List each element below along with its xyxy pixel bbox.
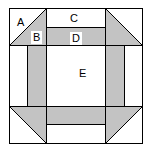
plain-band-right — [125, 46, 143, 107]
shaded-band-right — [106, 46, 125, 107]
region-label-d: D — [70, 32, 82, 45]
region-label-e: E — [79, 68, 86, 79]
plain-center-square — [47, 46, 106, 107]
region-label-b: B — [31, 31, 42, 44]
geometric-figure: A B C D E — [0, 0, 151, 154]
shaded-band-bottom — [47, 107, 106, 125]
region-label-c: C — [70, 13, 78, 24]
shaded-band-left — [28, 46, 47, 107]
region-label-a: A — [17, 17, 24, 28]
plain-band-left — [10, 46, 28, 107]
plain-band-bottom — [47, 125, 106, 144]
